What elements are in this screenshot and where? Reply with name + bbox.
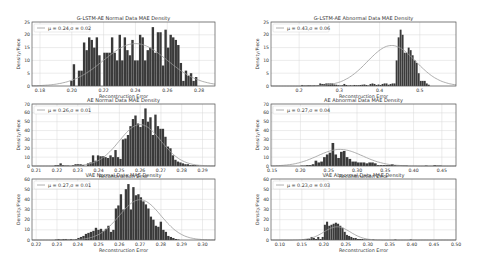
normal-fit-curve (271, 46, 456, 87)
histogram-panel-2: 0.20.30.40.50510152025G-LSTM-AE Abnormal… (255, 15, 456, 99)
y-tick-label: 15 (24, 45, 30, 50)
x-tick-label: 0.15 (267, 168, 277, 173)
x-tick-label: 0.18 (35, 88, 45, 93)
y-tick-label: 70 (24, 102, 30, 107)
x-tick-label: 0.20 (67, 88, 77, 93)
normal-fit-curve (271, 227, 456, 240)
legend-label: μ = 0.27,σ = 0.01 (48, 183, 91, 188)
y-tick-label: 60 (263, 110, 269, 115)
x-tick-label: 0.50 (451, 242, 461, 247)
x-tick-label: 0.40 (407, 242, 417, 247)
y-tick-label: 20 (263, 217, 269, 222)
y-tick-label: 70 (263, 102, 269, 107)
x-tick-label: 0.4 (376, 88, 383, 93)
chart-title: VAE Abnormal Data MAE Density (323, 172, 405, 179)
x-axis-label: Reconstruction Error (99, 248, 148, 253)
x-tick-label: 0.24 (130, 88, 140, 93)
legend: μ = 0.43,σ = 0.06 (273, 24, 330, 32)
legend: μ = 0.24,σ = 0.02 (34, 24, 91, 32)
x-tick-label: 0.23 (73, 168, 83, 173)
chart-title: VAE Normal Data MAE Density (86, 172, 162, 179)
legend-label: μ = 0.24,σ = 0.02 (48, 26, 91, 31)
x-tick-label: 0.25 (341, 242, 351, 247)
y-tick-label: 20 (263, 146, 269, 151)
x-tick-label: 0.29 (177, 242, 187, 247)
legend-label: μ = 0.26,σ = 0.01 (48, 108, 91, 113)
x-tick-label: 0.35 (385, 242, 395, 247)
x-tick-label: 0.26 (114, 242, 124, 247)
y-tick-label: 0 (27, 84, 30, 89)
y-axis-label: Density/Piece (255, 194, 260, 225)
y-axis-label: Density/Piece (255, 38, 260, 69)
legend: μ = 0.27,σ = 0.01 (34, 181, 91, 189)
x-tick-label: 0.2 (295, 88, 302, 93)
y-tick-label: 50 (263, 187, 269, 192)
y-tick-label: 15 (263, 45, 269, 50)
legend: μ = 0.27,σ = 0.04 (273, 106, 330, 114)
x-tick-label: 0.30 (363, 242, 373, 247)
x-tick-label: 0.21 (31, 168, 41, 173)
y-tick-label: 0 (27, 238, 30, 243)
y-tick-label: 40 (24, 128, 30, 133)
x-tick-label: 0.20 (319, 242, 329, 247)
y-tick-label: 30 (24, 137, 30, 142)
y-tick-label: 0 (266, 164, 269, 169)
chart-title: G-LSTM-AE Abnormal Data MAE Density (314, 15, 414, 22)
y-tick-label: 20 (263, 32, 269, 37)
legend-label: μ = 0.43,σ = 0.06 (287, 26, 330, 31)
y-tick-label: 0 (266, 84, 269, 89)
y-tick-label: 25 (24, 20, 30, 25)
histogram-bars (70, 27, 197, 86)
y-tick-label: 30 (24, 207, 30, 212)
y-tick-label: 40 (263, 197, 269, 202)
x-tick-label: 0.28 (156, 242, 166, 247)
y-axis-label: Density/Piece (16, 119, 21, 150)
y-tick-label: 0 (266, 238, 269, 243)
y-tick-label: 30 (263, 137, 269, 142)
y-tick-label: 10 (24, 58, 30, 63)
histogram-panel-5: 0.220.230.240.250.260.270.280.290.300102… (16, 172, 215, 253)
y-tick-label: 25 (263, 20, 269, 25)
y-tick-label: 40 (263, 128, 269, 133)
x-tick-label: 0.22 (98, 88, 108, 93)
chart-title: AE Abnormal Data MAE Density (324, 97, 403, 104)
figure-six-histograms: 0.180.200.220.240.260.280510152025G-LSTM… (0, 0, 478, 261)
y-tick-label: 10 (24, 155, 30, 160)
y-tick-label: 10 (263, 155, 269, 160)
y-tick-label: 50 (263, 119, 269, 124)
x-tick-label: 0.20 (295, 168, 305, 173)
x-tick-label: 0.23 (52, 242, 62, 247)
x-tick-label: 0.45 (429, 242, 439, 247)
y-tick-label: 60 (263, 177, 269, 182)
x-tick-label: 0.15 (297, 242, 307, 247)
y-tick-label: 20 (24, 217, 30, 222)
y-tick-label: 5 (27, 71, 30, 76)
y-axis-label: Density/Piece (16, 38, 21, 69)
x-tick-label: 0.25 (93, 242, 103, 247)
histogram-bars (302, 222, 412, 240)
y-tick-label: 30 (263, 207, 269, 212)
y-tick-label: 10 (24, 227, 30, 232)
x-tick-label: 0.27 (135, 242, 145, 247)
y-tick-label: 5 (266, 71, 269, 76)
legend-label: μ = 0.23,σ = 0.03 (287, 183, 330, 188)
y-tick-label: 0 (27, 164, 30, 169)
legend: μ = 0.23,σ = 0.03 (273, 181, 330, 189)
y-tick-label: 50 (24, 187, 30, 192)
y-tick-label: 10 (263, 227, 269, 232)
histogram-panel-6: 0.100.150.200.250.300.350.400.450.500102… (255, 172, 461, 253)
chart-title: AE Normal Data MAE Density (87, 97, 160, 104)
x-tick-label: 0.22 (31, 242, 41, 247)
x-tick-label: 0.28 (177, 168, 187, 173)
x-tick-label: 0.30 (197, 242, 207, 247)
x-tick-label: 0.10 (275, 242, 285, 247)
x-tick-label: 0.24 (73, 242, 83, 247)
y-axis-label: Density/Piece (255, 119, 260, 150)
legend-label: μ = 0.27,σ = 0.04 (287, 108, 330, 113)
y-tick-label: 20 (24, 32, 30, 37)
x-tick-label: 0.3 (336, 88, 343, 93)
y-tick-label: 60 (24, 110, 30, 115)
chart-title: G-LSTM-AE Normal Data MAE Density (77, 15, 171, 22)
histogram-panel-1: 0.180.200.220.240.260.280510152025G-LSTM… (16, 15, 215, 99)
x-tick-label: 0.28 (194, 88, 204, 93)
